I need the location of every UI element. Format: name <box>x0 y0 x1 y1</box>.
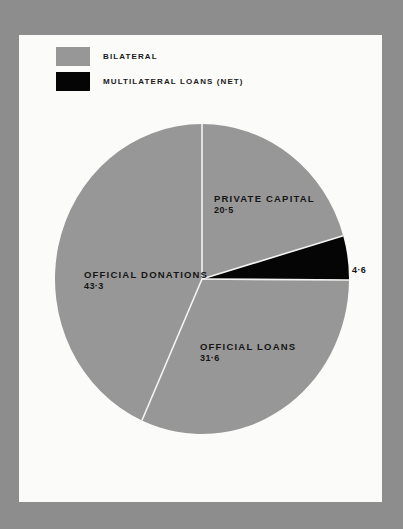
slice-value-official-loans: 31·6 <box>200 353 220 363</box>
slice-divider <box>202 279 349 280</box>
slice-label-official-donations: OFFICIAL DONATIONS <box>84 269 208 280</box>
slice-value-private-capital: 20·5 <box>214 205 234 215</box>
slice-value-official-donations: 43·3 <box>84 281 104 291</box>
slice-value-multilateral: 4·6 <box>352 265 366 275</box>
slice-label-official-loans: OFFICIAL LOANS <box>200 341 296 352</box>
pie-chart <box>0 0 403 529</box>
slice-label-private-capital: PRIVATE CAPITAL <box>214 193 315 204</box>
